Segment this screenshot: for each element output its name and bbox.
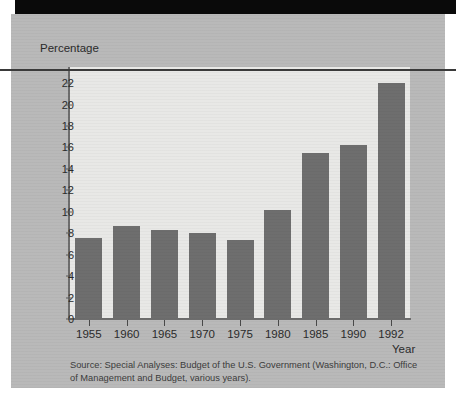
- x-axis-tick-mark: [127, 320, 128, 326]
- bar: [189, 233, 216, 319]
- x-axis-tick-mark: [278, 320, 279, 326]
- x-axis-tick-mark: [89, 320, 90, 326]
- bar: [113, 226, 140, 319]
- source-note: Source: Special Analyses: Budget of the …: [70, 359, 425, 384]
- bar: [75, 238, 102, 319]
- bar: [340, 145, 367, 319]
- scan-artifact-line: [0, 69, 456, 71]
- x-axis-ticks-and-labels: 195519601965197019751980198519901992: [70, 320, 410, 350]
- scan-top-black-band: [14, 0, 456, 14]
- x-axis-tick-mark: [316, 320, 317, 326]
- x-axis-tick-mark: [240, 320, 241, 326]
- x-axis-tick-mark: [202, 320, 203, 326]
- bar: [302, 153, 329, 319]
- x-axis-tick-mark: [391, 320, 392, 326]
- bar: [151, 230, 178, 319]
- bar: [378, 83, 405, 319]
- x-axis-tick-label: 1992: [369, 329, 413, 341]
- x-axis-title: Year: [392, 343, 415, 355]
- bars-layer: [70, 67, 410, 319]
- x-axis-tick-mark: [353, 320, 354, 326]
- x-axis-tick-mark: [164, 320, 165, 326]
- bar: [227, 240, 254, 319]
- bar: [264, 210, 291, 319]
